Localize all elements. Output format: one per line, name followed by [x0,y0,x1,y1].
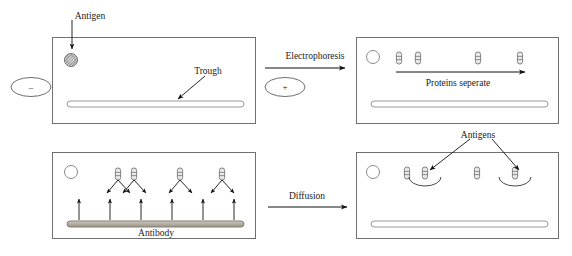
protein-band [131,168,136,180]
sample-well [65,166,78,179]
protein-band [474,167,479,179]
antibody-trough [67,221,244,227]
protein-band [219,168,224,180]
antigen-label: Antigen [75,12,106,22]
electrophoresis-label: Electrophoresis [285,52,344,62]
protein-band [517,52,522,64]
sample-well [367,51,380,64]
protein-band [415,52,420,64]
protein-band [512,167,517,179]
trough-label: Trough [194,67,222,77]
protein-band [396,52,401,64]
electrode-positive-sign: + [282,83,287,92]
diffusion-label: Diffusion [289,192,325,202]
antibody-label: Antibody [138,229,174,239]
electrode-negative-sign: – [29,83,34,92]
immunoelectrophoresis-diagram: Antigen Trough Electrophoresis Proteins … [0,0,572,256]
diagram-canvas [0,0,572,256]
proteins-separate-label: Proteins seperate [426,79,491,89]
panel-top-left [53,38,256,124]
panel-bottom-right [357,153,559,239]
trough [371,221,548,227]
protein-band [475,52,480,64]
trough [371,101,548,107]
antigens-label: Antigens [461,131,495,141]
gel-plate [53,38,256,124]
sample-well [367,166,380,179]
protein-band [177,168,182,180]
trough [67,101,244,107]
panel-bottom-left [53,153,256,239]
protein-band [115,168,120,180]
protein-band [422,167,427,179]
